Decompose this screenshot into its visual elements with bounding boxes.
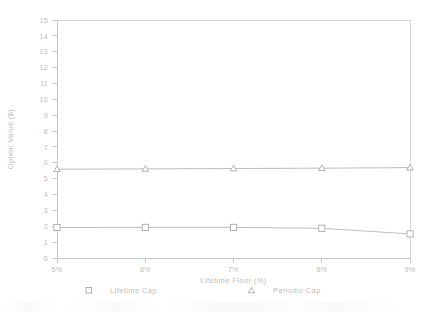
y-tick-label: 7: [44, 143, 48, 152]
data-point-marker: [319, 225, 325, 231]
x-axis-title: Lifetime Floor (%): [200, 276, 266, 285]
y-axis-tick-labels: 15 14 13 12 11 10 9 8 7 6 5 4 3 2 1 0: [40, 16, 48, 263]
y-tick-label: 2: [44, 222, 48, 231]
series-periodic-cap: [54, 164, 414, 171]
x-tick-label: 6%: [140, 265, 151, 274]
line-chart: 15 14 13 12 11 10 9 8 7 6 5 4 3 2 1 0: [0, 0, 429, 312]
y-tick-label: 14: [40, 32, 48, 41]
y-tick-label: 9: [44, 111, 48, 120]
legend-label: Lifetime Cap: [110, 286, 157, 295]
legend-label: Periodic Cap: [273, 286, 321, 295]
y-tick-label: 0: [44, 254, 48, 263]
data-point-marker: [407, 164, 414, 170]
legend-item-periodic-cap[interactable]: Periodic Cap: [248, 286, 320, 295]
legend-item-lifetime-cap[interactable]: Lifetime Cap: [86, 286, 157, 295]
y-axis-title: Option Value ($): [6, 109, 15, 169]
x-tick-label: 7%: [228, 265, 239, 274]
y-tick-label: 15: [40, 16, 48, 25]
data-point-marker: [230, 224, 236, 230]
series-lifetime-cap: [54, 224, 413, 237]
y-tick-label: 11: [40, 79, 48, 88]
y-tick-label: 3: [44, 206, 48, 215]
y-tick-label: 4: [44, 190, 48, 199]
y-tick-label: 1: [44, 238, 48, 247]
legend-triangle-marker-icon: [248, 287, 254, 293]
x-axis-tick-labels: 5% 6% 7% 8% 9%: [52, 265, 416, 274]
y-tick-label: 6: [44, 158, 48, 167]
y-tick-label: 10: [40, 95, 48, 104]
chart-figure: 15 14 13 12 11 10 9 8 7 6 5 4 3 2 1 0: [0, 0, 429, 312]
x-tick-label: 5%: [52, 265, 63, 274]
chart-legend: Lifetime Cap Periodic Cap: [86, 286, 321, 295]
y-axis-ticks: [52, 20, 57, 258]
y-tick-label: 13: [40, 47, 48, 56]
data-point-marker: [54, 224, 60, 230]
y-tick-label: 5: [44, 174, 48, 183]
data-point-marker: [142, 224, 148, 230]
x-axis-ticks: [57, 258, 410, 263]
y-tick-label: 8: [44, 127, 48, 136]
y-tick-label: 12: [40, 63, 48, 72]
data-point-marker: [407, 231, 413, 237]
page-edge-artifact: [0, 302, 429, 312]
x-tick-label: 8%: [316, 265, 327, 274]
legend-square-marker-icon: [86, 288, 92, 294]
x-tick-label: 9%: [405, 265, 416, 274]
